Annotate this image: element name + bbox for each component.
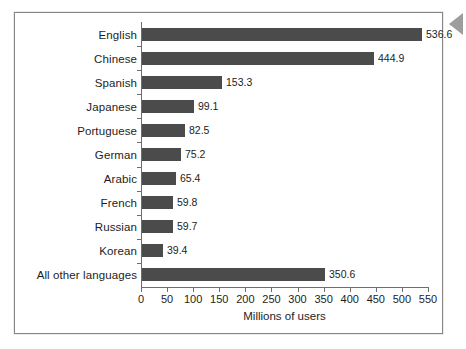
x-axis-tick-label: 0 — [138, 293, 144, 305]
category-label: Arabic — [13, 173, 137, 185]
bar-value-label: 65.4 — [180, 173, 200, 184]
x-axis-tick — [245, 288, 246, 292]
left-arrow-icon — [449, 13, 463, 35]
bar-value-label: 75.2 — [185, 149, 205, 160]
x-axis-tick-label: 50 — [161, 293, 173, 305]
y-axis-tick — [137, 94, 141, 95]
bar-value-label: 82.5 — [189, 125, 209, 136]
x-axis-tick — [219, 288, 220, 292]
category-label: Portuguese — [13, 125, 137, 137]
x-axis-tick — [376, 288, 377, 292]
bar — [142, 124, 185, 137]
bar — [142, 28, 422, 41]
bar-value-label: 153.3 — [226, 77, 252, 88]
category-label: French — [13, 197, 137, 209]
y-axis-tick — [137, 142, 141, 143]
y-axis-tick — [137, 118, 141, 119]
x-axis-tick-label: 550 — [419, 293, 437, 305]
bar-value-label: 99.1 — [198, 101, 218, 112]
bar-value-label: 59.7 — [177, 221, 197, 232]
x-axis-title: Millions of users — [243, 310, 325, 322]
bar — [142, 220, 173, 233]
x-axis-tick — [350, 288, 351, 292]
x-axis-tick — [167, 288, 168, 292]
x-axis-tick-label: 450 — [367, 293, 385, 305]
x-axis-tick — [428, 288, 429, 292]
x-axis-tick-label: 200 — [236, 293, 254, 305]
bar — [142, 172, 176, 185]
bar-value-label: 59.8 — [177, 197, 197, 208]
bar-value-label: 350.6 — [329, 269, 355, 280]
x-axis-tick-label: 350 — [314, 293, 332, 305]
x-axis-tick-label: 100 — [184, 293, 202, 305]
x-axis-tick — [402, 288, 403, 292]
category-label: English — [13, 29, 137, 41]
bar — [142, 244, 163, 257]
bar — [142, 196, 173, 209]
category-label: Russian — [13, 221, 137, 233]
bar — [142, 100, 194, 113]
y-axis-tick — [137, 46, 141, 47]
y-axis-tick — [137, 215, 141, 216]
x-axis-tick-label: 150 — [210, 293, 228, 305]
y-axis-tick — [137, 239, 141, 240]
x-axis-tick — [271, 288, 272, 292]
bar-value-label: 39.4 — [167, 245, 187, 256]
x-axis-tick-label: 250 — [262, 293, 280, 305]
y-axis-tick — [137, 167, 141, 168]
bar — [142, 52, 374, 65]
bar — [142, 148, 181, 161]
y-axis-tick — [137, 191, 141, 192]
bar-value-label: 444.9 — [378, 53, 404, 64]
x-axis-tick-label: 400 — [341, 293, 359, 305]
bar — [142, 76, 222, 89]
x-axis-tick — [193, 288, 194, 292]
x-axis-tick — [298, 288, 299, 292]
category-label: All other languages — [13, 269, 137, 281]
bar — [142, 268, 325, 281]
category-label: German — [13, 149, 137, 161]
chart-frame: 536.6444.9153.399.182.575.265.459.859.73… — [14, 12, 443, 334]
y-axis-tick — [137, 70, 141, 71]
y-axis-tick — [137, 263, 141, 264]
category-label: Spanish — [13, 77, 137, 89]
category-label: Japanese — [13, 101, 137, 113]
category-label: Korean — [13, 245, 137, 257]
bar-chart-plot-area: 536.6444.9153.399.182.575.265.459.859.73… — [15, 13, 444, 335]
x-axis-tick — [141, 288, 142, 292]
x-axis-line — [141, 287, 429, 288]
x-axis-tick-label: 300 — [288, 293, 306, 305]
x-axis-tick-label: 500 — [393, 293, 411, 305]
category-label: Chinese — [13, 53, 137, 65]
figure-root: 536.6444.9153.399.182.575.265.459.859.73… — [0, 0, 466, 349]
x-axis-tick — [324, 288, 325, 292]
